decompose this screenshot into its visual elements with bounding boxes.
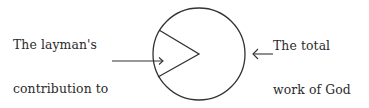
- total-work-label: The total work of God in the life of any…: [273, 10, 362, 108]
- right-label-line: work of God: [273, 83, 362, 98]
- left-arrow-icon: [112, 58, 163, 65]
- right-arrow-icon: [253, 49, 273, 59]
- right-label-line: The total: [273, 39, 362, 54]
- contribution-wedge: [158, 30, 199, 77]
